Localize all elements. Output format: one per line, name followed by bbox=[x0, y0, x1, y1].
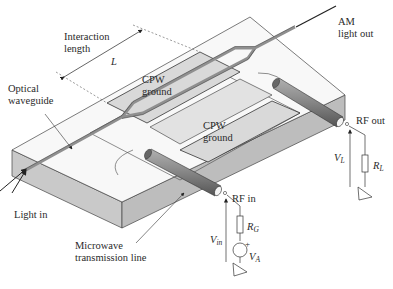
am-light-out-label: AMlight out bbox=[338, 16, 373, 40]
length-symbol: L bbox=[111, 56, 117, 68]
cpw-ground-top-label: CPWground bbox=[142, 74, 172, 98]
modulator-diagram: Interactionlength L Opticalwaveguide CPW… bbox=[0, 0, 393, 289]
rf-out-circuit bbox=[349, 126, 372, 200]
interaction-length-label: Interactionlength bbox=[64, 31, 109, 55]
r-l-label: RL bbox=[373, 160, 384, 175]
diagram-canvas bbox=[0, 0, 393, 289]
cpw-ground-bottom-label: CPWground bbox=[203, 120, 233, 144]
r-g-label: RG bbox=[247, 221, 259, 236]
light-in-label: Light in bbox=[14, 209, 48, 221]
v-a-label: VA bbox=[249, 251, 260, 266]
optical-waveguide-label: Opticalwaveguide bbox=[8, 83, 53, 107]
v-l-label: VL bbox=[334, 152, 345, 167]
v-in-label: Vin bbox=[210, 234, 222, 249]
rf-out-label: RF out bbox=[356, 115, 385, 127]
plus-sign: + bbox=[245, 238, 250, 250]
light-out-fiber bbox=[296, 6, 336, 27]
rf-in-label: RF in bbox=[232, 193, 256, 205]
microwave-line-label: Microwavetransmission line bbox=[75, 240, 146, 264]
rf-in-circuit bbox=[226, 195, 247, 276]
